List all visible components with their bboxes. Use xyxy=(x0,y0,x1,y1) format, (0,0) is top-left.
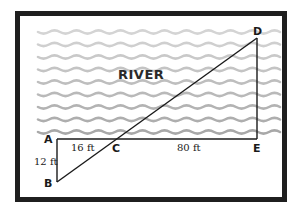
measurement-ab: 12 ft xyxy=(34,156,58,167)
measurement-ac: 16 ft xyxy=(71,142,95,153)
point-label-d: D xyxy=(253,25,262,38)
measurement-ce: 80 ft xyxy=(177,142,201,153)
point-label-b: B xyxy=(44,177,52,190)
river-waves xyxy=(38,30,280,133)
point-label-a: A xyxy=(44,133,53,146)
point-label-e: E xyxy=(253,142,261,155)
point-label-c: C xyxy=(112,142,120,155)
river-geometry-diagram: RIVER A B C D E 16 ft 80 ft 12 ft xyxy=(0,0,298,211)
wave-row xyxy=(38,93,280,96)
wave-row xyxy=(38,30,280,33)
river-label: RIVER xyxy=(118,67,164,82)
wave-row xyxy=(38,43,280,46)
wave-row xyxy=(38,118,280,121)
wave-row xyxy=(38,55,280,58)
wave-row xyxy=(38,130,280,133)
